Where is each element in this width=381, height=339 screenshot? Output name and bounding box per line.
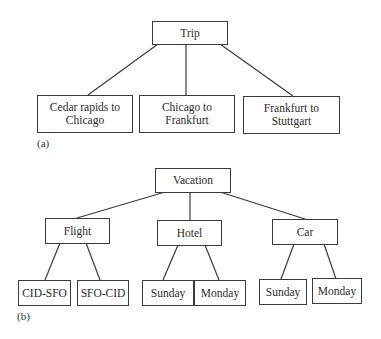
node-hotel-monday: Monday bbox=[194, 280, 246, 306]
node-car: Car bbox=[272, 219, 338, 245]
node-car-monday: Monday bbox=[312, 278, 362, 304]
node-hotel: Hotel bbox=[157, 220, 222, 246]
node-label-line1: Cedar rapids to bbox=[50, 101, 120, 114]
node-label: Sunday bbox=[151, 287, 186, 300]
node-label-line2: Chicago bbox=[66, 114, 104, 127]
node-trip: Trip bbox=[152, 21, 228, 45]
node-label: Vacation bbox=[173, 174, 213, 187]
node-sfo-cid: SFO-CID bbox=[77, 280, 129, 306]
caption-a: (a) bbox=[37, 137, 49, 149]
node-cedar-rapids-to-chicago: Cedar rapids to Chicago bbox=[37, 95, 133, 133]
node-vacation: Vacation bbox=[155, 168, 231, 193]
node-label: Flight bbox=[64, 225, 91, 238]
node-label: Car bbox=[297, 226, 314, 239]
node-label: Hotel bbox=[177, 227, 203, 240]
node-label: Monday bbox=[318, 285, 356, 298]
caption-b: (b) bbox=[17, 310, 30, 322]
node-label: Monday bbox=[201, 287, 239, 300]
node-label-line2: Stuttgart bbox=[272, 115, 312, 128]
node-label: Sunday bbox=[266, 286, 301, 299]
node-label-line1: Frankfurt to bbox=[264, 102, 319, 115]
node-label: SFO-CID bbox=[81, 287, 126, 300]
node-hotel-sunday: Sunday bbox=[142, 280, 194, 306]
node-chicago-to-frankfurt: Chicago to Frankfurt bbox=[139, 95, 235, 133]
node-label: CID-SFO bbox=[22, 287, 67, 300]
node-label-line1: Chicago to bbox=[162, 101, 212, 114]
node-car-sunday: Sunday bbox=[259, 279, 307, 305]
node-cid-sfo: CID-SFO bbox=[18, 280, 71, 306]
node-label: Trip bbox=[180, 27, 199, 40]
node-frankfurt-to-stuttgart: Frankfurt to Stuttgart bbox=[243, 96, 340, 134]
node-label-line2: Frankfurt bbox=[165, 114, 208, 127]
node-flight: Flight bbox=[45, 218, 110, 244]
